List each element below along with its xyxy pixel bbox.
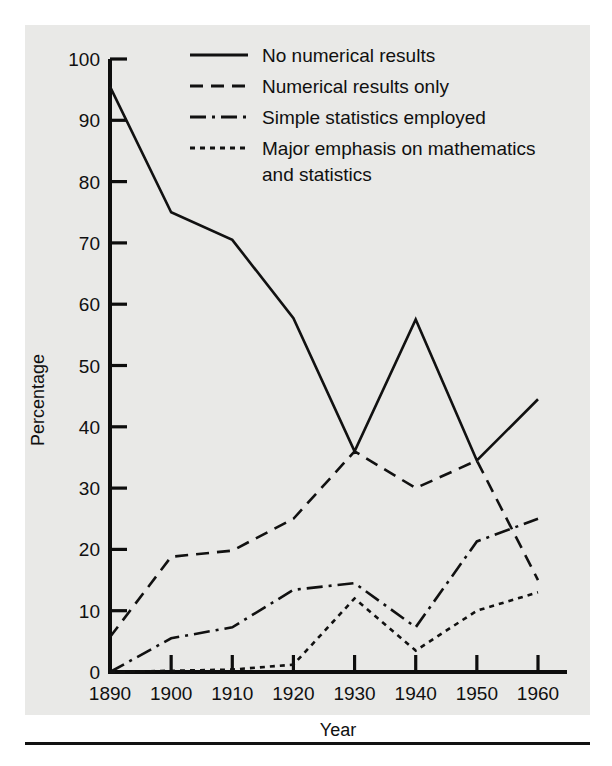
x-tick-label: 1950 (456, 683, 498, 704)
x-axis-ticks (171, 655, 538, 672)
legend-label: Numerical results only (262, 76, 449, 97)
y-tick-label: 0 (89, 662, 100, 683)
x-tick-label: 1960 (517, 683, 559, 704)
y-tick-label: 70 (79, 233, 100, 254)
y-tick-label: 10 (79, 601, 100, 622)
y-tick-label: 30 (79, 478, 100, 499)
series-line-dash-dot (110, 519, 538, 672)
x-tick-label: 1940 (395, 683, 437, 704)
x-tick-label: 1910 (211, 683, 253, 704)
x-tick-label: 1930 (333, 683, 375, 704)
x-tick-label: 1900 (150, 683, 192, 704)
legend-label: Major emphasis on mathematics (262, 138, 536, 159)
y-axis-ticks (110, 59, 127, 611)
y-tick-label: 80 (79, 172, 100, 193)
y-tick-label: 40 (79, 417, 100, 438)
y-tick-label: 60 (79, 294, 100, 315)
series-line-dotted (110, 592, 538, 672)
y-tick-label: 20 (79, 539, 100, 560)
x-tick-label: 1890 (89, 683, 131, 704)
bottom-divider-rule (25, 742, 590, 745)
y-tick-label: 50 (79, 356, 100, 377)
legend-label: Simple statistics employed (262, 107, 486, 128)
x-tick-label: 1920 (272, 683, 314, 704)
y-axis-title: Percentage (28, 354, 48, 446)
y-tick-label: 90 (79, 110, 100, 131)
legend-label-continued: and statistics (262, 164, 372, 185)
line-chart: 0102030405060708090100 18901900191019201… (0, 0, 612, 766)
y-axis-tick-labels: 0102030405060708090100 (68, 49, 100, 683)
y-tick-label: 100 (68, 49, 100, 70)
legend-label: No numerical results (262, 45, 435, 66)
chart-page: 0102030405060708090100 18901900191019201… (0, 0, 612, 766)
x-axis-tick-labels: 18901900191019201930194019501960 (89, 683, 559, 704)
chart-legend: No numerical resultsNumerical results on… (190, 45, 536, 185)
x-axis-title: Year (320, 720, 356, 740)
